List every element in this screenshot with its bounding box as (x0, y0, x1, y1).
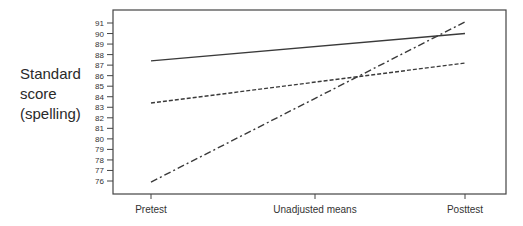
y-tick-label: 76 (95, 177, 104, 186)
y-tick-label: 91 (95, 19, 104, 28)
y-tick-label: 86 (95, 72, 104, 81)
plot-frame (113, 10, 506, 194)
x-tick-label: Unadjusted means (273, 204, 356, 215)
y-tick-label: 85 (95, 82, 104, 91)
y-tick-label: 80 (95, 135, 104, 144)
x-tick-label: Posttest (447, 204, 483, 215)
series-line-solid (151, 34, 465, 61)
series-line-dashed (151, 63, 465, 103)
y-tick-label: 77 (95, 166, 104, 175)
y-tick-label: 79 (95, 145, 104, 154)
y-tick-label: 81 (95, 124, 104, 133)
y-tick-label: 90 (95, 30, 104, 39)
y-tick-label: 82 (95, 114, 104, 123)
y-axis-ticks: 76777879808182838485868788899091 (95, 19, 113, 186)
y-tick-label: 78 (95, 156, 104, 165)
line-chart: 76777879808182838485868788899091 Pretest… (0, 0, 523, 226)
y-tick-label: 84 (95, 93, 104, 102)
x-axis-ticks: PretestUnadjusted meansPosttest (135, 194, 483, 215)
y-tick-label: 89 (95, 40, 104, 49)
y-tick-label: 83 (95, 103, 104, 112)
x-tick-label: Pretest (135, 204, 167, 215)
y-tick-label: 87 (95, 61, 104, 70)
series-line-dashdot (151, 22, 465, 182)
series-lines (151, 22, 465, 182)
y-tick-label: 88 (95, 51, 104, 60)
